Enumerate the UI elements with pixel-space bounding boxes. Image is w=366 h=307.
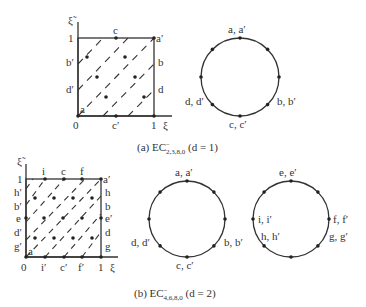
bottom-label-c-prime: c′ [112,119,119,131]
right-label-d: d [158,83,164,95]
top-label-f: f [80,165,84,177]
bottom-label-f-prime: f′ [78,261,84,273]
circle-b-right-label-right: f, f′ [333,213,348,225]
y-tick-one: 1 [17,173,23,185]
x-axis-label: ξ [110,261,115,274]
circle-b-right-label-left: i, i′ [258,213,272,225]
circle-b-right-label-lower-left: h, h′ [261,230,280,242]
circle-a-label-lower-left: d, d′ [185,95,204,107]
dashed-flow-lines [78,38,154,116]
corner-label-a-prime: a′ [103,173,110,185]
corner-label-a: a [28,245,33,257]
x-axis-label: ξ [163,119,168,132]
bottom-label-i-prime: i′ [41,261,46,273]
circle-b-left-label-top: a, a′ [175,166,193,178]
circle-b-right-label-top: e, e′ [279,166,297,178]
caption-a: (a) EC−2,3,8,0 (d = 1) [137,141,218,156]
panel-a: ξ̃ 1 0 1 ξ c c′ b′ d′ b d a′ a a, a′ c, … [66,14,296,156]
y-axis-label: ξ̃ [17,155,26,168]
circle-diagram-b-left [147,179,227,259]
x-tick-one: 1 [151,119,157,131]
top-label-c: c [113,24,118,36]
circle-a-label-top: a, a′ [228,23,246,35]
left-label-g-prime: g′ [14,240,22,252]
left-label-b-prime: b′ [14,200,22,212]
right-label-b: b [158,56,164,68]
x-tick-one: 1 [98,261,104,273]
right-label-e-prime: e′ [105,212,112,224]
origin-label: 0 [73,119,79,131]
y-axis-label: ξ̃ [68,14,77,27]
right-label-b: b [105,200,111,212]
left-label-d-prime: d′ [14,226,22,238]
circle-diagram-a [199,36,281,118]
circle-b-left-label-bottom: c, c′ [176,259,194,271]
y-tick-one: 1 [68,32,74,44]
circle-b-left-label-lower-left: d, d′ [131,236,150,248]
top-label-i: i [42,165,45,177]
circle-b-right-label-lower-right: g, g′ [329,230,348,242]
panel-b: ξ̃ 1 0 1 ξ i c f i′ c′ f′ h′ b′ e d′ g′ … [14,155,348,302]
circle-a-label-lower-right: b, b′ [277,95,296,107]
right-label-d: d [105,226,111,238]
right-label-h: h [105,186,111,198]
origin-label: 0 [21,261,27,273]
corner-label-a-prime: a′ [156,32,163,44]
corner-label-a: a [80,103,85,115]
left-label-e: e [16,212,21,224]
left-label-h-prime: h′ [14,186,22,198]
left-label-b-prime: b′ [66,56,74,68]
left-label-d-prime: d′ [66,83,74,95]
caption-b: (b) EC−4,6,8,0 (d = 2) [134,287,216,302]
bottom-label-c-prime: c′ [60,261,67,273]
circle-b-left-label-lower-right: b, b′ [224,236,243,248]
right-label-g: g [105,240,111,252]
circle-a-label-bottom: c, c′ [229,118,247,130]
top-label-c: c [61,165,66,177]
